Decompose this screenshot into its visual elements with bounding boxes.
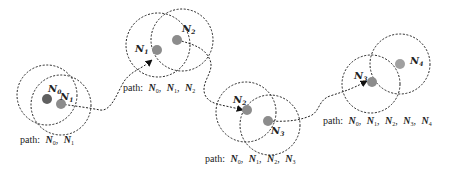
node-n1 — [152, 45, 162, 55]
node-label-n2: N2 — [232, 94, 246, 106]
path-caption-2: path: N0, N1, N2 — [123, 82, 195, 94]
node-n0 — [42, 94, 52, 104]
path-caption-1: path: N0, N1 — [20, 134, 74, 146]
node-label-n4: N4 — [409, 55, 423, 67]
node-n4 — [395, 59, 405, 69]
node-label-n1: N1 — [134, 43, 148, 55]
path-caption-4: path: N0, N1, N2, N3, N4 — [323, 115, 432, 127]
diagram-svg: N0 N1 N1 N2 N2 N3 N3 N4 path: N0, N1 pat… — [0, 0, 458, 177]
node-label-n3: N3 — [270, 125, 284, 137]
path-caption-3: path: N0, N1, N2, N3 — [205, 153, 295, 165]
node-label-n2: N2 — [181, 23, 195, 35]
node-label-n3: N3 — [353, 70, 367, 82]
node-n2 — [172, 35, 182, 45]
node-n3 — [367, 77, 377, 87]
path-diagram: N0 N1 N1 N2 N2 N3 N3 N4 path: N0, N1 pat… — [0, 0, 458, 177]
node-label-n1: N1 — [59, 91, 73, 103]
node-n2 — [242, 105, 252, 115]
